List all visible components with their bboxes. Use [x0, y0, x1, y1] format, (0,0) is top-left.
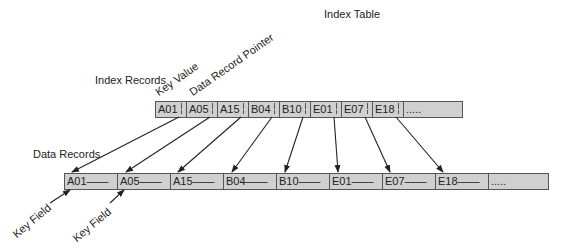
pointer-arrows — [0, 0, 572, 249]
